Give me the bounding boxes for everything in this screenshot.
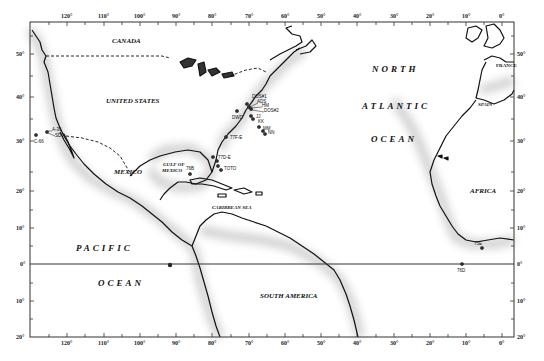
label-north: NORTH bbox=[372, 64, 419, 74]
tick-bottom-90: 90° bbox=[172, 340, 180, 346]
tick-bottom-120: 120° bbox=[61, 340, 72, 346]
tick-bottom-110: 110° bbox=[98, 340, 109, 346]
tick-right-0: 0° bbox=[517, 261, 522, 267]
tick-right-50n: 50° bbox=[517, 51, 525, 57]
tick-top-90: 90° bbox=[172, 13, 180, 19]
tick-top-80: 80° bbox=[208, 13, 216, 19]
label-gulf-of: GULF OF bbox=[163, 162, 185, 167]
station-label-77d-e: 77D-E bbox=[218, 155, 231, 160]
tick-top-30: 30° bbox=[390, 13, 398, 19]
station-label-76d: 76D bbox=[457, 268, 465, 273]
label-caribbean-sea: CARIBBEAN SEA bbox=[212, 205, 252, 210]
station-label-75e: 75E bbox=[474, 241, 482, 246]
tick-top-10: 10° bbox=[462, 13, 470, 19]
tick-right-20n: 20° bbox=[517, 188, 525, 194]
station-label-76b: 76B bbox=[186, 166, 194, 171]
tick-bottom-10: 10° bbox=[462, 340, 470, 346]
tick-left-20s: 20° bbox=[16, 334, 24, 340]
tick-left-10s: 10° bbox=[16, 298, 24, 304]
label-africa: AFRICA bbox=[470, 187, 496, 195]
tick-bottom-80: 80° bbox=[208, 340, 216, 346]
label-ocean-atlantic: OCEAN bbox=[371, 134, 417, 144]
tick-top-100: 100° bbox=[134, 13, 145, 19]
map-frame bbox=[30, 22, 514, 337]
label-canada: CANADA bbox=[112, 37, 141, 45]
tick-left-0: 0° bbox=[20, 261, 25, 267]
label-france: FRANCE bbox=[496, 63, 517, 68]
tick-left-20n: 20° bbox=[16, 188, 24, 194]
station-label-a36: A-36 bbox=[52, 127, 62, 132]
tick-right-30n: 30° bbox=[517, 138, 525, 144]
galapagos-marker bbox=[168, 263, 172, 267]
tick-bottom-40: 40° bbox=[353, 340, 361, 346]
map-canvas bbox=[0, 0, 544, 361]
tick-top-0: 0° bbox=[499, 13, 504, 19]
tick-top-110: 110° bbox=[98, 13, 109, 19]
label-pacific: PACIFIC bbox=[76, 243, 133, 253]
tick-top-120: 120° bbox=[61, 13, 72, 19]
tick-left-50n: 50° bbox=[16, 51, 24, 57]
tick-left-10n: 10° bbox=[16, 225, 24, 231]
tick-top-40: 40° bbox=[353, 13, 361, 19]
canada-us-border bbox=[46, 56, 170, 58]
tick-bottom-50: 50° bbox=[317, 340, 325, 346]
station-label-77f-e: 77F-E bbox=[230, 135, 242, 140]
tick-bottom-20: 20° bbox=[426, 340, 434, 346]
station-label-nn: NN bbox=[268, 130, 275, 135]
label-united-states: UNITED STATES bbox=[106, 97, 160, 105]
tick-right-10s: 10° bbox=[517, 298, 525, 304]
coastal-shading bbox=[30, 30, 514, 337]
tick-bottom-30: 30° bbox=[390, 340, 398, 346]
station-label-sdt: SDT bbox=[55, 133, 64, 138]
tick-bottom-100: 100° bbox=[134, 340, 145, 346]
tick-right-10n: 10° bbox=[517, 225, 525, 231]
tick-top-50: 50° bbox=[317, 13, 325, 19]
label-spain: SPAIN bbox=[478, 102, 492, 107]
tick-right-20s: 20° bbox=[517, 334, 525, 340]
canada-us-east-border bbox=[230, 68, 266, 76]
tick-top-60: 60° bbox=[281, 13, 289, 19]
label-atlantic: ATLANTIC bbox=[362, 101, 430, 111]
label-gulf-mexico: MEXICO bbox=[162, 168, 182, 173]
tick-left-40n: 40° bbox=[16, 94, 24, 100]
label-south-america: SOUTH AMERICA bbox=[260, 292, 318, 300]
station-label-dwd: DWD bbox=[232, 115, 243, 120]
tick-top-20: 20° bbox=[426, 13, 434, 19]
frame-ticks bbox=[30, 22, 514, 337]
tick-left-30n: 30° bbox=[16, 138, 24, 144]
label-ocean-pacific: OCEAN bbox=[98, 278, 144, 288]
label-mexico: MEXICO bbox=[114, 168, 142, 176]
tick-right-40n: 40° bbox=[517, 94, 525, 100]
tick-top-70: 70° bbox=[245, 13, 253, 19]
tick-bottom-70: 70° bbox=[245, 340, 253, 346]
tick-bottom-0: 0° bbox=[499, 340, 504, 346]
tick-bottom-60: 60° bbox=[281, 340, 289, 346]
station-label-kk: KK bbox=[258, 119, 264, 124]
station-label-toto: TOTO bbox=[224, 166, 236, 171]
station-label-dos2: DOS#2 bbox=[264, 108, 279, 113]
station-label-c66: C-66 bbox=[34, 139, 44, 144]
